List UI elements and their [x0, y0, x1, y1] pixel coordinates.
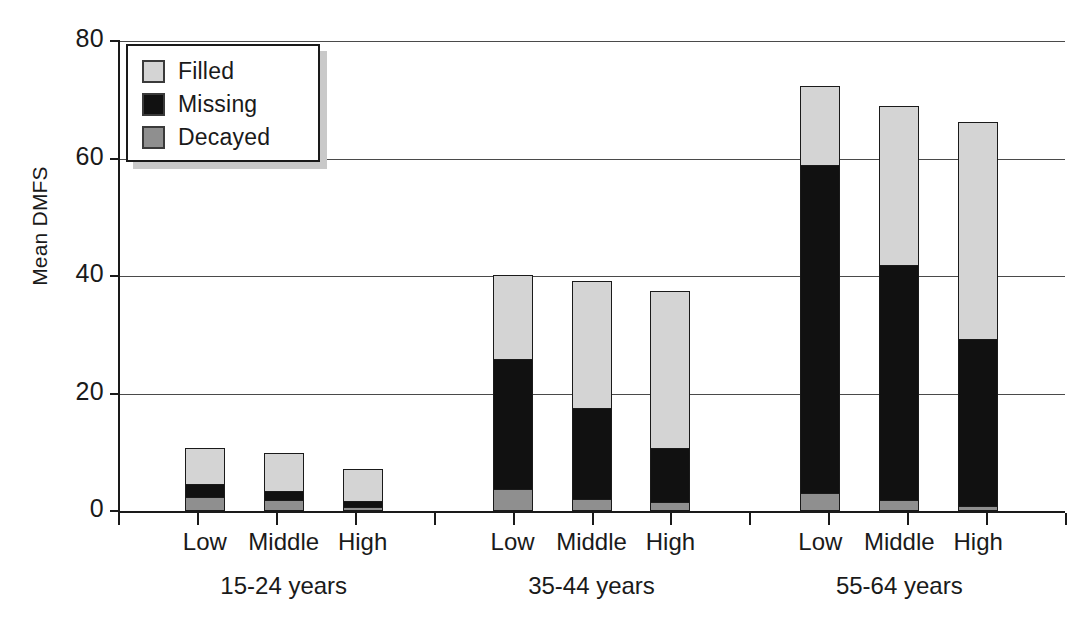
- bar-55-64-years-middle: [879, 106, 919, 511]
- x-tick-9: [828, 513, 830, 525]
- filled-swatch-icon: [142, 60, 165, 83]
- group-label-1: 35-44 years: [442, 572, 742, 600]
- bar-segment-filled: [880, 107, 918, 265]
- stacked-bar-chart: Mean DMFS 806040200 LowMiddleHighLowMidd…: [0, 0, 1082, 633]
- x-tick-6: [592, 513, 594, 525]
- group-label-0: 15-24 years: [134, 572, 434, 600]
- bar-35-44-years-low: [493, 275, 533, 511]
- y-tick-label-20: 20: [44, 377, 104, 406]
- legend-item-label: Decayed: [178, 126, 270, 149]
- missing-swatch-icon: [142, 93, 165, 116]
- y-tick-label-40: 40: [44, 259, 104, 288]
- bar-35-44-years-middle: [572, 281, 612, 511]
- bar-15-24-years-high: [343, 469, 383, 511]
- y-tick-label-80: 80: [44, 24, 104, 53]
- bar-segment-decayed: [801, 493, 839, 510]
- bar-segment-decayed: [265, 500, 303, 510]
- bar-segment-filled: [573, 282, 611, 407]
- bar-55-64-years-low: [800, 86, 840, 511]
- bar-segment-decayed: [880, 500, 918, 510]
- legend-item-missing: Missing: [142, 88, 318, 121]
- bar-segment-missing: [651, 448, 689, 502]
- bar-segment-filled: [186, 449, 224, 485]
- bar-15-24-years-middle: [264, 453, 304, 511]
- bar-15-24-years-low: [185, 448, 225, 511]
- y-tick-label-0: 0: [44, 494, 104, 523]
- y-tick-label-60: 60: [44, 142, 104, 171]
- bar-segment-filled: [265, 454, 303, 490]
- bar-segment-decayed: [573, 499, 611, 510]
- bar-segment-missing: [186, 484, 224, 497]
- bar-segment-filled: [494, 276, 532, 359]
- bar-segment-decayed: [959, 506, 997, 510]
- legend-item-label: Missing: [178, 93, 257, 116]
- x-tick-0: [118, 513, 120, 525]
- bar-segment-filled: [801, 87, 839, 166]
- group-label-2: 55-64 years: [749, 572, 1049, 600]
- legend-item-filled: Filled: [142, 55, 318, 88]
- legend-item-decayed: Decayed: [142, 121, 318, 154]
- legend-item-label: Filled: [178, 60, 234, 83]
- bar-segment-missing: [494, 359, 532, 489]
- x-tick-3: [355, 513, 357, 525]
- bar-segment-missing: [573, 408, 611, 499]
- x-tick-11: [986, 513, 988, 525]
- x-tick-10: [907, 513, 909, 525]
- x-axis-label-2: High: [303, 528, 423, 556]
- x-tick-1: [197, 513, 199, 525]
- x-tick-2: [276, 513, 278, 525]
- x-tick-7: [670, 513, 672, 525]
- bar-segment-filled: [344, 470, 382, 501]
- bar-segment-decayed: [494, 489, 532, 510]
- decayed-swatch-icon: [142, 126, 165, 149]
- x-axis-label-5: High: [610, 528, 730, 556]
- legend: FilledMissingDecayed: [126, 44, 320, 162]
- bar-segment-filled: [651, 292, 689, 448]
- bar-segment-missing: [880, 265, 918, 500]
- x-tick-4: [434, 513, 436, 525]
- bar-segment-decayed: [186, 497, 224, 510]
- bar-segment-decayed: [344, 507, 382, 510]
- bar-segment-filled: [959, 123, 997, 339]
- x-tick-8: [749, 513, 751, 525]
- bar-segment-missing: [265, 491, 303, 500]
- x-axis-label-8: High: [918, 528, 1038, 556]
- bar-segment-decayed: [651, 502, 689, 510]
- bar-35-44-years-high: [650, 291, 690, 511]
- x-tick-12: [1065, 513, 1067, 525]
- bar-segment-missing: [801, 165, 839, 493]
- bar-segment-missing: [959, 339, 997, 506]
- x-tick-5: [513, 513, 515, 525]
- bar-55-64-years-high: [958, 122, 998, 511]
